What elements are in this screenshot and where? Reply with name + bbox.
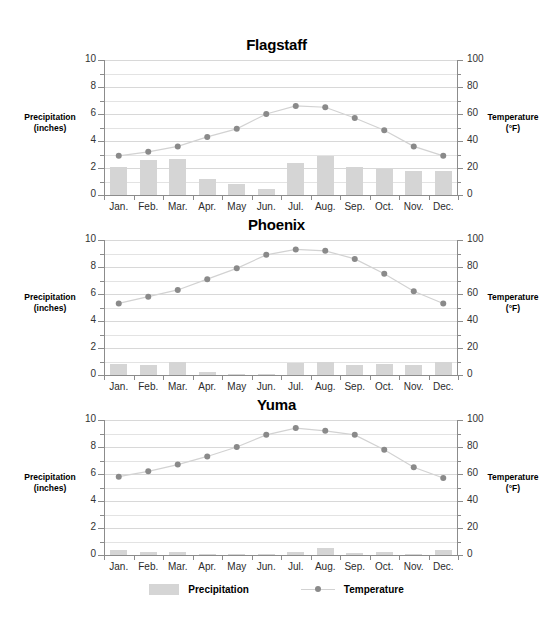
temperature-line — [119, 106, 444, 156]
x-axis-tick — [429, 375, 430, 380]
temperature-marker: Mar.: 67 °F — [175, 462, 181, 468]
left-axis-title-line2: (inches) — [8, 483, 92, 494]
legend-item-precipitation: Precipitation — [149, 584, 249, 595]
temperature-marker: Aug.: 65 °F — [322, 104, 328, 110]
x-axis-tick — [252, 555, 253, 560]
x-axis-tick — [340, 555, 341, 560]
temperature-marker: Apr.: 73 °F — [204, 453, 210, 459]
temperature-series: Jan.: 29 °FFeb.: 32 °FMar.: 36 °FApr.: 4… — [104, 60, 458, 195]
x-axis-tick — [163, 195, 164, 200]
y-axis-label-left: 8 — [90, 80, 96, 91]
right-axis-title-line2: (°F) — [476, 483, 550, 494]
left-axis-title-line2: (inches) — [8, 123, 92, 134]
temperature-marker: Dec.: 29 °F — [440, 153, 446, 159]
chart-title: Phoenix — [0, 216, 553, 233]
x-axis-tick — [311, 195, 312, 200]
y-axis-label-right: 60 — [467, 287, 478, 298]
right-axis-title-line1: Temperature — [476, 472, 550, 483]
temperature-marker: May: 49 °F — [234, 126, 240, 132]
y-axis-label-left: 10 — [85, 53, 96, 64]
climate-charts-figure: Flagstaff Precipitation (inches) Tempera… — [0, 0, 553, 622]
temperature-line — [119, 249, 444, 303]
y-axis-label-right: 20 — [467, 341, 478, 352]
temperature-marker: Sep.: 57 °F — [352, 115, 358, 121]
temperature-marker: Nov.: 36 °F — [411, 143, 417, 149]
chart-title: Flagstaff — [0, 36, 553, 53]
temperature-marker: Feb.: 32 °F — [145, 149, 151, 155]
y-axis-label-right: 100 — [467, 413, 484, 424]
temperature-marker: Apr.: 71 °F — [204, 276, 210, 282]
y-axis-label-right: 60 — [467, 107, 478, 118]
temperature-marker: Aug.: 92 °F — [322, 428, 328, 434]
y-axis-label-left: 2 — [90, 521, 96, 532]
plot-area: 0246810020406080100Jan.Feb.Mar.Apr.MayJu… — [104, 240, 458, 375]
y-axis-label-right: 100 — [467, 53, 484, 64]
right-axis-title: Temperature (°F) — [476, 112, 550, 134]
y-axis-label-right: 100 — [467, 233, 484, 244]
y-axis-label-right: 0 — [467, 548, 473, 559]
x-axis-tick — [458, 555, 459, 560]
temperature-marker: Jun.: 60 °F — [263, 111, 269, 117]
temperature-marker: Oct.: 78 °F — [381, 447, 387, 453]
temperature-marker: Apr.: 43 °F — [204, 134, 210, 140]
y-axis-label-right: 60 — [467, 467, 478, 478]
x-axis-tick — [193, 195, 194, 200]
x-axis-tick — [340, 195, 341, 200]
y-axis-label-left: 4 — [90, 314, 96, 325]
x-axis-label: Dec. — [423, 201, 463, 212]
temperature-marker: Jan.: 58 °F — [116, 474, 122, 480]
y-axis-label-right: 80 — [467, 440, 478, 451]
x-axis-tick — [399, 375, 400, 380]
x-axis-tick — [134, 555, 135, 560]
temperature-marker: Nov.: 65 °F — [411, 464, 417, 470]
left-axis-title: Precipitation (inches) — [8, 112, 92, 134]
y-axis-label-left: 6 — [90, 107, 96, 118]
temperature-marker: Jul.: 93 °F — [293, 246, 299, 252]
x-axis-tick — [370, 555, 371, 560]
x-axis-tick — [281, 195, 282, 200]
x-axis-tick — [458, 195, 459, 200]
y-axis-label-left: 10 — [85, 413, 96, 424]
left-axis-title-line1: Precipitation — [8, 472, 92, 483]
x-axis-tick — [163, 375, 164, 380]
temperature-marker: Nov.: 62 °F — [411, 288, 417, 294]
left-axis-title: Precipitation (inches) — [8, 472, 92, 494]
x-axis-tick — [429, 195, 430, 200]
chart-phoenix: Phoenix Precipitation (inches) Temperatu… — [0, 212, 553, 392]
x-axis-tick — [104, 555, 105, 560]
x-axis-tick — [134, 195, 135, 200]
y-axis-label-left: 0 — [90, 548, 96, 559]
chart-yuma: Yuma Precipitation (inches) Temperature … — [0, 392, 553, 572]
y-axis-label-left: 2 — [90, 161, 96, 172]
temperature-marker: May: 80 °F — [234, 444, 240, 450]
y-axis-label-left: 6 — [90, 287, 96, 298]
plot-area: 0246810020406080100Jan.Feb.Mar.Apr.MayJu… — [104, 420, 458, 555]
x-axis-tick — [252, 375, 253, 380]
temperature-marker: Oct.: 48 °F — [381, 127, 387, 133]
y-axis-label-left: 2 — [90, 341, 96, 352]
temperature-marker: Jul.: 66 °F — [293, 103, 299, 109]
left-axis-title-line2: (inches) — [8, 303, 92, 314]
y-axis-label-right: 20 — [467, 521, 478, 532]
y-axis-label-left: 6 — [90, 467, 96, 478]
chart-legend: Precipitation Temperature — [0, 578, 553, 600]
right-axis-title-line2: (°F) — [476, 303, 550, 314]
temperature-marker: Dec.: 57 °F — [440, 475, 446, 481]
x-axis-label: Dec. — [423, 381, 463, 392]
x-axis-tick — [104, 195, 105, 200]
x-axis-label: Dec. — [423, 561, 463, 572]
right-axis-title-line2: (°F) — [476, 123, 550, 134]
x-axis-tick — [193, 375, 194, 380]
y-axis-label-right: 0 — [467, 368, 473, 379]
y-axis-label-right: 80 — [467, 260, 478, 271]
temperature-marker: Sep.: 89 °F — [352, 432, 358, 438]
x-axis-tick — [311, 555, 312, 560]
temperature-marker: Aug.: 92 °F — [322, 248, 328, 254]
legend-label-temperature: Temperature — [344, 584, 404, 595]
chart-title: Yuma — [0, 396, 553, 413]
x-axis-tick — [252, 195, 253, 200]
temperature-marker: May: 79 °F — [234, 265, 240, 271]
x-axis-tick — [281, 375, 282, 380]
x-axis-tick — [311, 375, 312, 380]
x-axis-tick — [222, 555, 223, 560]
